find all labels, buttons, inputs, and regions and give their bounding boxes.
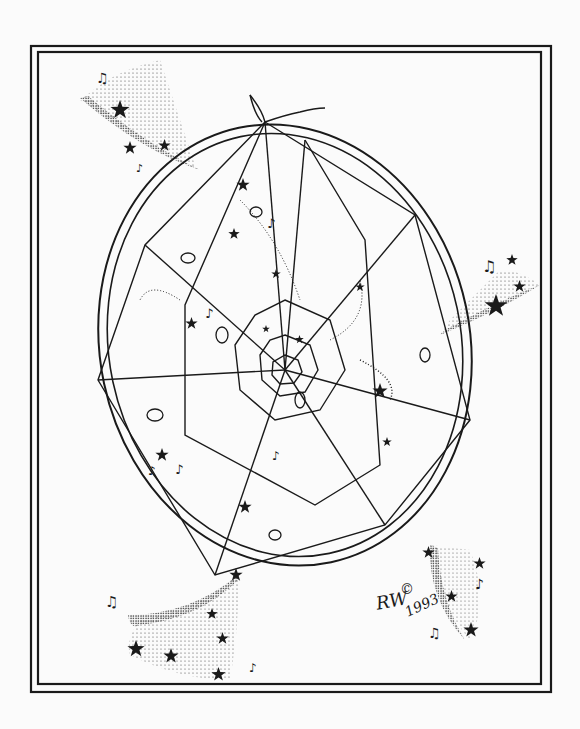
svg-text:♪: ♪: [475, 576, 484, 592]
svg-text:♫: ♫: [482, 257, 496, 276]
dreamcatcher-illustration: ♫ ♪ ♪ ♪ ♪ ♪ ♪ ♫ ♪ ♫ ♫ ♪: [0, 0, 580, 729]
svg-text:♫: ♫: [96, 70, 109, 86]
svg-text:♪: ♪: [272, 449, 280, 463]
svg-text:♪: ♪: [136, 162, 143, 175]
svg-text:♪: ♪: [148, 464, 156, 478]
svg-text:♫: ♫: [105, 593, 118, 611]
svg-text:♪: ♪: [205, 306, 213, 321]
svg-text:♪: ♪: [267, 216, 275, 231]
dreamcatcher-hoop: [58, 89, 512, 600]
svg-text:♫: ♫: [428, 625, 441, 641]
svg-text:♪: ♪: [249, 661, 257, 675]
svg-text:♪: ♪: [175, 462, 183, 477]
